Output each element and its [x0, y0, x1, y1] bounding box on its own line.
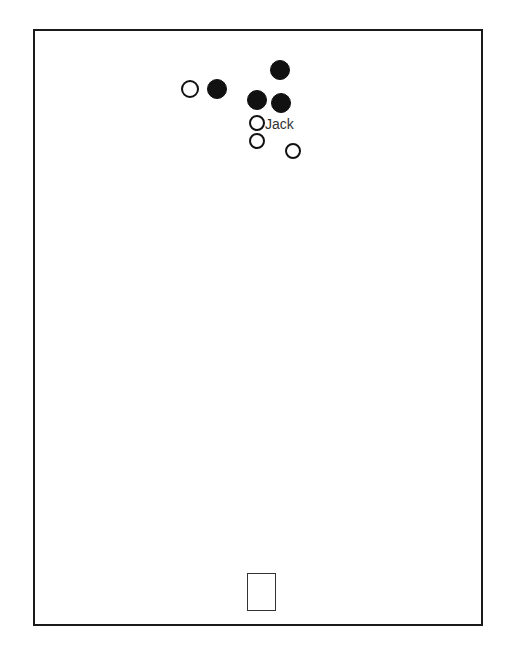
open-circle-marker — [249, 115, 265, 131]
filled-circle-marker — [207, 79, 227, 99]
player-label-jack: Jack — [265, 117, 294, 131]
filled-circle-marker — [247, 90, 267, 110]
open-circle-marker — [181, 80, 199, 98]
filled-circle-marker — [270, 60, 290, 80]
filled-circle-marker — [271, 93, 291, 113]
open-circle-marker — [249, 133, 265, 149]
open-circle-marker — [285, 143, 301, 159]
goal-box — [247, 573, 276, 611]
